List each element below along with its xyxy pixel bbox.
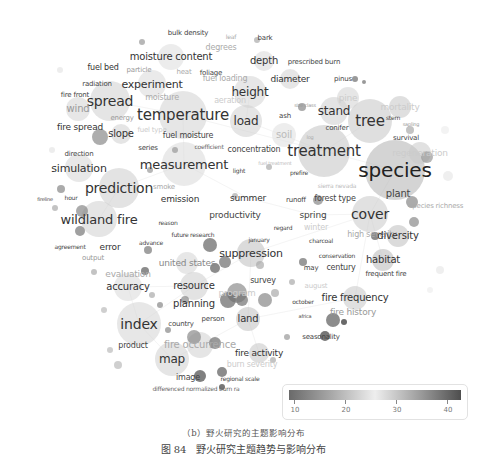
keyword-label: charcoal xyxy=(309,238,333,244)
keyword-label: smoke xyxy=(153,184,175,191)
keyword-label: pine xyxy=(339,94,358,103)
keyword-label: reason xyxy=(158,220,177,226)
keyword-label: burn severity xyxy=(227,361,277,369)
color-scale-legend: 10 20 30 40 xyxy=(282,384,468,420)
keyword-label: degrees xyxy=(206,44,237,52)
keyword-label: regional scale xyxy=(221,376,260,382)
color-scale-bar xyxy=(289,390,461,400)
keyword-label: accuracy xyxy=(106,282,150,292)
figure-subcaption: （b）野火研究的主题影响分布 xyxy=(0,426,487,438)
keyword-label: wildland fire xyxy=(61,213,138,226)
keyword-label: coefficient xyxy=(194,144,223,150)
keyword-label: africa xyxy=(299,314,312,319)
keyword-label: image xyxy=(176,374,200,382)
keyword-label: productivity xyxy=(209,211,260,220)
keyword-label: fuel bed xyxy=(87,64,118,72)
keyword-label: prescribed burn xyxy=(288,59,340,66)
keyword-label: stand xyxy=(318,105,351,117)
keyword-label: aeration xyxy=(214,97,246,105)
keyword-label: treatment xyxy=(287,144,360,159)
keyword-label: frequent fire xyxy=(366,271,407,278)
keyword-label: hour xyxy=(65,195,78,201)
keyword-label: fire front xyxy=(61,92,89,99)
legend-tick-label: 20 xyxy=(342,406,351,414)
keyword-label: slope xyxy=(108,129,134,139)
keyword-label: wind xyxy=(67,104,90,114)
keyword-label: century xyxy=(326,264,355,272)
keyword-label: planning xyxy=(173,299,215,309)
keyword-label: diversity xyxy=(377,231,418,241)
keyword-label: simulation xyxy=(51,163,106,174)
keyword-label: january xyxy=(248,237,269,243)
keyword-label: tree xyxy=(355,114,384,129)
keyword-label: concentration xyxy=(228,146,281,154)
keyword-label: output xyxy=(82,255,104,262)
keyword-label: log xyxy=(306,135,313,140)
keyword-label: fire spread xyxy=(57,123,103,132)
keyword-label: species xyxy=(358,160,431,180)
keyword-label: sapling xyxy=(403,122,420,127)
keyword-label: spring xyxy=(300,211,327,220)
keyword-label: load xyxy=(234,115,259,127)
keyword-label: seasonality xyxy=(302,334,339,341)
keyword-label: sierra nevada xyxy=(318,183,357,189)
keyword-label: species richness xyxy=(409,203,463,210)
keyword-label: product xyxy=(118,342,147,350)
keyword-label: october xyxy=(292,299,314,305)
keyword-label: ash xyxy=(279,113,291,120)
keyword-label: bark xyxy=(258,35,273,42)
keyword-label: error xyxy=(100,243,121,252)
keyword-label: land xyxy=(238,314,259,324)
keyword-label: fuel loading xyxy=(203,75,248,83)
keyword-label: series xyxy=(138,145,158,152)
keyword-label: program xyxy=(218,289,255,298)
keyword-label: advance xyxy=(139,240,163,246)
legend-tick xyxy=(294,400,295,404)
keyword-label: size class xyxy=(294,103,316,108)
keyword-label: united states xyxy=(159,259,215,268)
keyword-label: regard xyxy=(274,225,292,231)
keyword-label: measurement xyxy=(140,158,229,171)
legend-tick-label: 10 xyxy=(291,406,300,414)
keyword-label: heat xyxy=(177,69,192,76)
keyword-label: pinus xyxy=(334,76,352,83)
keyword-label: energy xyxy=(110,115,133,122)
keyword-label: temperature xyxy=(137,108,229,123)
keyword-label: fire frequency xyxy=(322,293,389,303)
keyword-label: cover xyxy=(351,207,389,221)
keyword-label: moisture xyxy=(145,94,179,102)
keyword-label: prefire xyxy=(290,170,308,176)
keyword-label: direction xyxy=(65,151,94,158)
keyword-labels: speciestreatmenttemperaturemeasurementtr… xyxy=(0,0,487,400)
keyword-label: map xyxy=(159,353,185,365)
keyword-label: index xyxy=(120,317,157,331)
keyword-label: bulk density xyxy=(168,30,208,37)
keyword-label: fuel treatment xyxy=(258,161,291,166)
keyword-label: runoff xyxy=(286,197,306,204)
keyword-label: prediction xyxy=(85,181,153,195)
keyword-label: habitat xyxy=(366,255,400,265)
keyword-overlay-map: speciestreatmenttemperaturemeasurementtr… xyxy=(0,0,487,400)
keyword-label: country xyxy=(168,321,193,328)
keyword-label: fire history xyxy=(330,308,376,317)
keyword-label: fire activity xyxy=(235,349,283,358)
keyword-label: stem xyxy=(386,115,400,121)
keyword-label: soil xyxy=(276,130,292,140)
legend-tick xyxy=(447,400,448,404)
keyword-label: summer xyxy=(230,194,266,203)
keyword-label: evaluation xyxy=(105,270,150,279)
legend-tick xyxy=(396,400,397,404)
keyword-label: person xyxy=(202,316,225,323)
keyword-label: survival xyxy=(393,135,419,142)
keyword-label: spread xyxy=(87,94,134,108)
keyword-label: differenced normalized burn ra xyxy=(152,386,239,392)
keyword-label: plant xyxy=(386,189,411,199)
keyword-label: moisture content xyxy=(130,52,212,62)
keyword-label: future research xyxy=(172,232,215,238)
legend-tick-label: 40 xyxy=(444,406,453,414)
keyword-label: leaf xyxy=(226,34,236,40)
keyword-label: may xyxy=(304,265,319,272)
keyword-label: forest type xyxy=(314,195,355,203)
keyword-label: conifer xyxy=(326,125,349,132)
keyword-label: winter xyxy=(304,224,328,232)
